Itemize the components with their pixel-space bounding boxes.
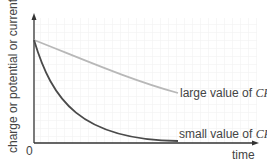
small-cr-text: small value of (179, 127, 256, 141)
y-axis-label: charge or potential or current (6, 13, 20, 153)
large-cr-label: large value of CR (180, 86, 267, 101)
cr-symbol: CR (256, 127, 267, 141)
small-cr-label: small value of CR (179, 127, 267, 142)
y-axis-arrow-icon (32, 13, 37, 20)
origin-label: 0 (26, 144, 33, 158)
large-cr-text: large value of (180, 86, 255, 100)
cr-symbol: CR (255, 86, 267, 100)
grid (35, 18, 257, 143)
x-axis-label: time (232, 148, 255, 162)
